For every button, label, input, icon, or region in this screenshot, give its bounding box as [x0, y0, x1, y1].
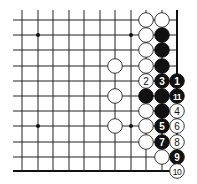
move-number: 1 — [174, 76, 180, 87]
black-stone-icon — [155, 43, 170, 58]
white-stone — [139, 28, 154, 43]
white-stone-icon — [108, 59, 123, 74]
black-stone: 3 — [155, 74, 170, 89]
black-stone: 9 — [170, 150, 185, 165]
black-stone — [155, 89, 170, 104]
black-stone: 11 — [170, 89, 185, 104]
white-stone: 4 — [170, 104, 185, 119]
white-stone-icon — [155, 150, 170, 165]
move-number: 3 — [159, 76, 165, 87]
move-number: 6 — [174, 121, 180, 132]
star-point-icon — [129, 33, 133, 37]
black-stone — [139, 89, 154, 104]
go-board: 2311145678910 — [0, 0, 197, 184]
move-number: 7 — [159, 137, 165, 148]
white-stone-icon — [155, 13, 170, 28]
white-stone-icon — [139, 13, 154, 28]
white-stone: 2 — [139, 74, 154, 89]
black-stone: 1 — [170, 74, 185, 89]
white-stone — [139, 13, 154, 28]
white-stone-icon — [108, 119, 123, 134]
white-stone: 8 — [170, 135, 185, 150]
black-stone-icon — [155, 104, 170, 119]
black-stone: 7 — [155, 135, 170, 150]
black-stone — [155, 104, 170, 119]
white-stone — [139, 135, 154, 150]
black-stone: 5 — [155, 119, 170, 134]
white-stone — [108, 89, 123, 104]
white-stone — [155, 13, 170, 28]
move-number: 8 — [174, 137, 180, 148]
star-point-icon — [129, 124, 133, 128]
move-number: 4 — [174, 106, 180, 117]
white-stone — [139, 119, 154, 134]
black-stone — [155, 43, 170, 58]
white-stone — [108, 119, 123, 134]
white-stone-icon — [139, 104, 154, 119]
black-stone-icon — [155, 28, 170, 43]
black-stone-icon — [155, 59, 170, 74]
white-stone — [139, 43, 154, 58]
move-number: 2 — [143, 76, 149, 87]
white-stone-icon — [139, 59, 154, 74]
white-stone-icon — [139, 28, 154, 43]
black-stone — [155, 28, 170, 43]
white-stone — [139, 104, 154, 119]
white-stone: 6 — [170, 119, 185, 134]
move-number: 11 — [173, 92, 182, 102]
black-stone-icon — [155, 89, 170, 104]
black-stone-icon — [139, 89, 154, 104]
white-stone-icon — [108, 89, 123, 104]
white-stone-icon — [139, 43, 154, 58]
white-stone: 10 — [170, 164, 185, 179]
white-stone-icon — [139, 119, 154, 134]
black-stone — [155, 59, 170, 74]
white-stone — [155, 150, 170, 165]
white-stone — [139, 59, 154, 74]
move-number: 10 — [173, 167, 182, 177]
move-number: 9 — [174, 152, 180, 163]
star-point-icon — [36, 124, 40, 128]
white-stone — [108, 59, 123, 74]
white-stone-icon — [139, 135, 154, 150]
move-number: 5 — [159, 121, 165, 132]
star-point-icon — [36, 33, 40, 37]
